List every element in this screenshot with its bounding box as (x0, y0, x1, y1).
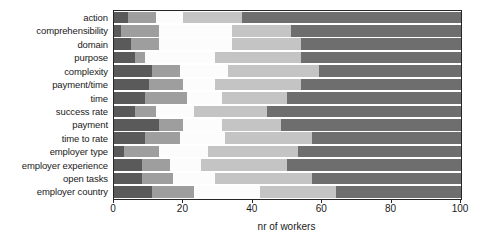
bar-segment (145, 92, 187, 104)
bar-segment (114, 79, 149, 91)
x-tick-label: 40 (246, 203, 257, 214)
bar-segment (260, 186, 336, 198)
category-label: employer experience (0, 159, 111, 172)
bar-segment (222, 119, 281, 131)
bar-segment (301, 38, 461, 50)
bar-segment (183, 12, 242, 24)
bar-segment (170, 159, 201, 171)
x-tick-label: 100 (452, 203, 469, 214)
bar-segment (194, 106, 267, 118)
bar-segment (142, 173, 173, 185)
bar-segment (142, 159, 170, 171)
bar-row (114, 145, 461, 158)
category-label: payment (0, 118, 111, 131)
bar-segment (114, 186, 152, 198)
stacked-bar (114, 119, 461, 131)
bar-segment (242, 12, 461, 24)
bar-segment (135, 106, 156, 118)
bar-segment (298, 146, 461, 158)
category-label: action (0, 11, 111, 24)
bar-segment (183, 79, 214, 91)
bar-segment (114, 12, 128, 24)
bar-segment (215, 173, 312, 185)
category-axis: actioncomprehensibilitydomainpurposecomp… (0, 11, 111, 199)
x-axis-tick-labels: 020406080100 (113, 203, 460, 217)
x-tick-label: 80 (385, 203, 396, 214)
bar-segment (232, 38, 301, 50)
bar-segment (152, 65, 180, 77)
category-label: complexity (0, 65, 111, 78)
bar-row (114, 159, 461, 172)
bar-segment (131, 38, 159, 50)
x-axis-title: nr of workers (113, 221, 460, 232)
stacked-bar (114, 186, 461, 198)
bar-segment (145, 132, 180, 144)
bar-row (114, 51, 461, 64)
bar-row (114, 11, 461, 24)
bar-segment (287, 92, 461, 104)
stacked-bar (114, 12, 461, 24)
bar-segment (114, 119, 159, 131)
stacked-bar (114, 25, 461, 37)
bar-segment (114, 65, 152, 77)
bar-segment (152, 186, 194, 198)
bar-segment (267, 106, 461, 118)
stacked-bar (114, 173, 461, 185)
bar-segment (281, 119, 461, 131)
category-label: open tasks (0, 172, 111, 185)
bar-segment (180, 132, 225, 144)
bar-segment (336, 186, 461, 198)
bars-container (114, 11, 461, 199)
x-tick-label: 20 (177, 203, 188, 214)
bar-segment (222, 92, 288, 104)
stacked-bar (114, 52, 461, 64)
bar-segment (215, 52, 302, 64)
bar-segment (145, 52, 214, 64)
category-label: employer country (0, 185, 111, 198)
stacked-bar (114, 92, 461, 104)
category-label: comprehensibility (0, 24, 111, 37)
bar-segment (114, 132, 145, 144)
bar-segment (301, 52, 461, 64)
bar-segment (287, 159, 461, 171)
category-label: payment/time (0, 78, 111, 91)
bar-segment (180, 65, 229, 77)
category-label: domain (0, 38, 111, 51)
bar-segment (114, 159, 142, 171)
bar-segment (225, 132, 312, 144)
bar-segment (128, 12, 156, 24)
bar-segment (156, 12, 184, 24)
stacked-bar (114, 146, 461, 158)
category-label: success rate (0, 105, 111, 118)
bar-segment (159, 146, 208, 158)
stacked-bar-chart: actioncomprehensibilitydomainpurposecomp… (0, 0, 478, 242)
bar-segment (228, 65, 318, 77)
bar-segment (201, 159, 288, 171)
x-tick-label: 60 (316, 203, 327, 214)
bar-segment (114, 173, 142, 185)
bar-row (114, 132, 461, 145)
bar-segment (291, 25, 461, 37)
category-label: employer type (0, 145, 111, 158)
stacked-bar (114, 65, 461, 77)
bar-segment (114, 52, 135, 64)
bar-segment (183, 119, 221, 131)
bar-segment (159, 25, 232, 37)
bar-segment (194, 186, 260, 198)
stacked-bar (114, 132, 461, 144)
category-label: time to rate (0, 132, 111, 145)
bar-segment (208, 146, 298, 158)
bar-segment (114, 92, 145, 104)
bar-row (114, 172, 461, 185)
bar-row (114, 65, 461, 78)
category-label: purpose (0, 51, 111, 64)
bar-segment (135, 52, 145, 64)
bar-segment (114, 38, 131, 50)
stacked-bar (114, 159, 461, 171)
plot-area (113, 11, 462, 199)
bar-row (114, 78, 461, 91)
bar-segment (301, 79, 461, 91)
bar-segment (124, 146, 159, 158)
bar-segment (319, 65, 461, 77)
bar-row (114, 118, 461, 131)
